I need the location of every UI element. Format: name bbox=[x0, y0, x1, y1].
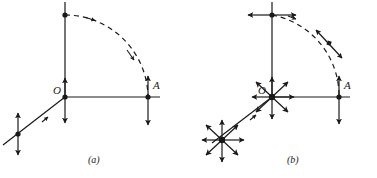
panel-a-origin-label: O bbox=[53, 85, 61, 96]
panel-b-origin-label: O bbox=[258, 85, 266, 96]
panel-a-top-point bbox=[62, 12, 67, 17]
panel-a-caption: (a) bbox=[88, 155, 100, 165]
panel-b-caption: (b) bbox=[287, 155, 299, 165]
panel-a-point-a-label: A bbox=[153, 80, 160, 91]
panel-b-point-a-label: A bbox=[344, 80, 351, 91]
